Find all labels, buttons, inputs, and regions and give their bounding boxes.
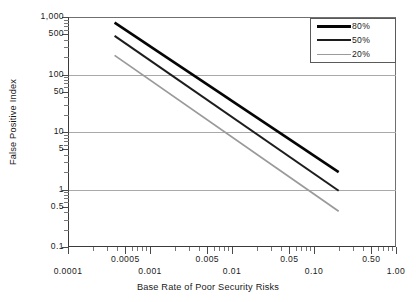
legend-item-80: 80% — [311, 19, 395, 33]
legend-item-20: 20% — [311, 47, 395, 61]
series-line-50pct — [115, 36, 339, 191]
legend: 80% 50% 20% — [310, 18, 396, 63]
legend-swatch-50-icon — [317, 39, 351, 41]
series-line-80pct — [115, 23, 339, 173]
y-axis-title: False Positive Index — [8, 57, 18, 187]
legend-swatch-80-icon — [317, 25, 351, 28]
legend-label-20: 20% — [352, 49, 370, 59]
false-positive-index-chart: 1,0005001005010510.50.1 0.00050.0050.050… — [0, 0, 416, 302]
legend-item-50: 50% — [311, 33, 395, 47]
x-axis-title: Base Rate of Poor Security Risks — [0, 282, 416, 292]
legend-label-80: 80% — [352, 21, 370, 31]
legend-swatch-20-icon — [317, 54, 351, 55]
legend-label-50: 50% — [352, 35, 370, 45]
series-line-20pct — [115, 55, 339, 211]
